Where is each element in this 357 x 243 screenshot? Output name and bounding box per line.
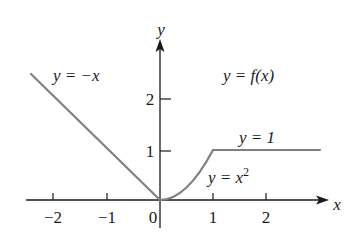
x-tick-label: −2	[44, 208, 62, 227]
segment-neg-x	[31, 74, 160, 200]
segment-x-squared	[160, 150, 213, 200]
piecewise-function-graph: −2 −1 0 1 2 1 2 x y y = −x y = f(x) y = …	[0, 0, 357, 243]
y-tick-label: 2	[146, 90, 155, 109]
x-tick-label: −1	[98, 208, 116, 227]
annotation-one: y = 1	[237, 128, 275, 147]
annotation-x-squared-exponent: 2	[243, 165, 249, 179]
x-tick-label: 1	[209, 208, 218, 227]
x-tick-label: 0	[149, 208, 158, 227]
y-ticks	[160, 99, 171, 151]
annotation-x-squared-base: y = x	[206, 168, 244, 187]
annotation-neg-x: y = −x	[51, 66, 100, 85]
annotation-x-squared: y = x2	[206, 165, 249, 187]
x-tick-label: 2	[262, 208, 271, 227]
y-tick-label: 1	[146, 142, 155, 161]
function-curve	[31, 74, 320, 200]
y-axis-label: y	[155, 20, 165, 39]
annotation-f-of-x: y = f(x)	[221, 66, 274, 85]
x-axis-label: x	[332, 195, 341, 214]
